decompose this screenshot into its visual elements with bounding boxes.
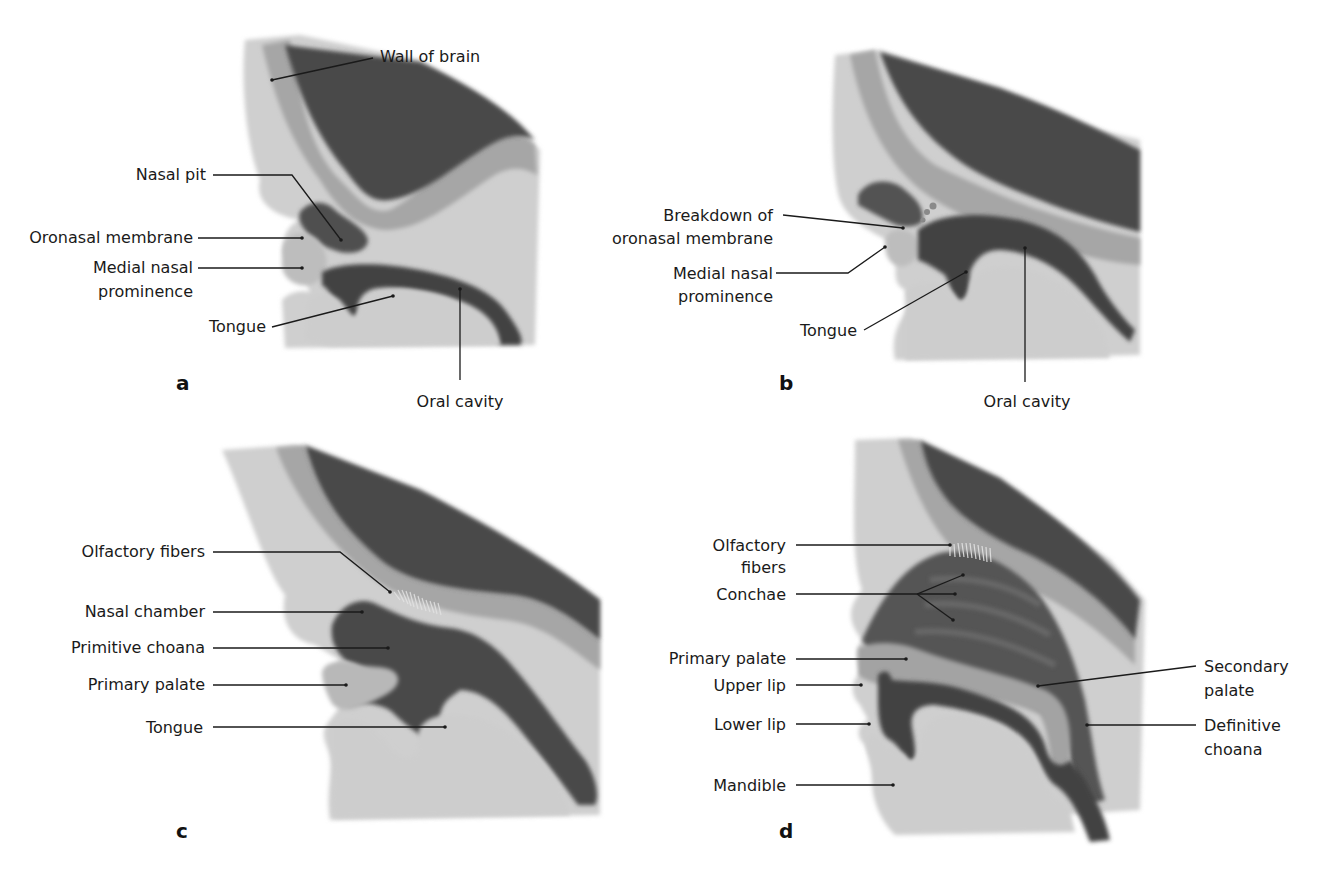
- label-tongue-b: Tongue: [799, 321, 857, 340]
- label-breakdown-line1: Breakdown of: [663, 206, 773, 225]
- label-lower-lip: Lower lip: [714, 715, 786, 734]
- panel-letter-d: d: [779, 819, 793, 843]
- label-definitive-choana-line1: Definitive: [1204, 716, 1281, 735]
- panel-c: Olfactory fibers Nasal chamber Primitive…: [71, 445, 600, 843]
- label-olfactory-d-line1: Olfactory: [713, 536, 786, 555]
- label-mandible: Mandible: [713, 776, 786, 795]
- label-medial-nasal-b-line1: Medial nasal: [673, 264, 773, 283]
- panel-a: Wall of brain Nasal pit Oronasal membran…: [29, 35, 540, 411]
- label-primitive-choana: Primitive choana: [71, 638, 205, 657]
- leader-medial-nasal-prominence-b: [776, 247, 885, 273]
- label-upper-lip: Upper lip: [713, 676, 786, 695]
- panel-letter-a: a: [176, 371, 190, 395]
- label-tongue: Tongue: [208, 317, 266, 336]
- label-secondary-palate-line1: Secondary: [1204, 657, 1289, 676]
- embryonic-nasal-development-figure: Wall of brain Nasal pit Oronasal membran…: [0, 0, 1324, 872]
- label-primary-palate-d: Primary palate: [669, 649, 786, 668]
- label-primary-palate-c: Primary palate: [88, 675, 205, 694]
- label-oral-cavity: Oral cavity: [417, 392, 504, 411]
- label-breakdown-line2: oronasal membrane: [612, 229, 773, 248]
- label-olfactory-d-line2: fibers: [741, 558, 786, 577]
- panel-c-illustration: [222, 445, 600, 820]
- label-oral-cavity-b: Oral cavity: [984, 392, 1071, 411]
- label-conchae: Conchae: [716, 585, 786, 604]
- label-medial-nasal-b-line2: prominence: [678, 287, 773, 306]
- panel-b-illustration: [833, 50, 1140, 360]
- label-wall-of-brain: Wall of brain: [380, 47, 480, 66]
- label-secondary-palate-line2: palate: [1204, 681, 1254, 700]
- label-nasal-pit: Nasal pit: [136, 165, 206, 184]
- panel-letter-c: c: [176, 819, 188, 843]
- label-oronasal-membrane: Oronasal membrane: [29, 228, 193, 247]
- panel-a-illustration: [243, 35, 540, 348]
- label-medial-nasal-line1: Medial nasal: [93, 258, 193, 277]
- label-tongue-c: Tongue: [145, 718, 203, 737]
- label-medial-nasal-line2: prominence: [98, 282, 193, 301]
- panel-d-illustration: [851, 438, 1145, 842]
- label-olfactory-fibers-c: Olfactory fibers: [82, 542, 205, 561]
- panel-letter-b: b: [779, 371, 793, 395]
- panel-d: Olfactory fibers Conchae Primary palate …: [669, 438, 1289, 843]
- panel-b: Breakdown of oronasal membrane Medial na…: [612, 50, 1140, 411]
- label-nasal-chamber: Nasal chamber: [85, 602, 206, 621]
- label-definitive-choana-line2: choana: [1204, 740, 1262, 759]
